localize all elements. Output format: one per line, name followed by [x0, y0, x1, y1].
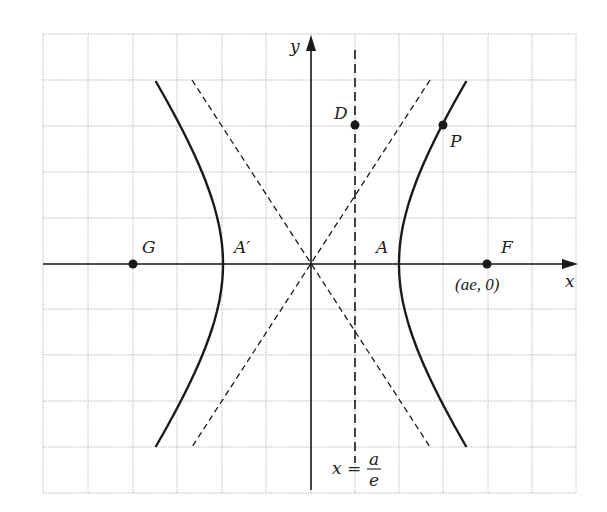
point-d — [351, 121, 360, 130]
label-focus-coordinates: (ae, 0) — [455, 275, 500, 294]
directrix-label-numerator: a — [369, 449, 379, 469]
point-f — [483, 260, 492, 269]
label-a-prime: A′ — [232, 237, 250, 257]
point-p — [439, 121, 448, 130]
label-d: D — [333, 103, 348, 123]
x-axis-label: x — [565, 271, 575, 291]
hyperbola-diagram: y x G A′ A F (ae, 0) D P x = a e — [0, 0, 607, 512]
label-p: P — [449, 131, 462, 151]
label-g: G — [142, 237, 156, 257]
y-axis-arrow-icon — [306, 35, 316, 51]
directrix-label-denominator: e — [369, 470, 379, 490]
point-g — [129, 260, 138, 269]
directrix-label-lhs: x = — [332, 458, 361, 478]
label-a: A — [374, 237, 388, 257]
y-axis-label: y — [289, 36, 300, 56]
label-f: F — [500, 237, 514, 257]
